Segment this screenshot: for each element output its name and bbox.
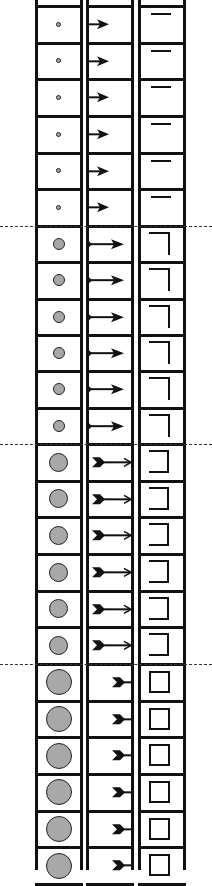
- top-line-icon: [139, 6, 184, 43]
- fletched-long-arrow-icon: [87, 554, 132, 591]
- short-arrow-right-icon: [87, 189, 132, 226]
- corner-bracket-icon: [139, 408, 184, 444]
- shape-cell: [139, 811, 184, 848]
- closed-square-icon: [139, 847, 184, 884]
- shape-cell: [139, 554, 184, 591]
- circle-icon: [49, 563, 68, 582]
- circle-icon: [46, 743, 72, 769]
- circle-icon: [56, 22, 61, 27]
- circle-icon: [46, 669, 72, 695]
- closed-square-icon: [139, 811, 184, 848]
- circle-cell: [36, 335, 81, 371]
- circle-icon: [53, 383, 65, 395]
- shape-cell: [139, 335, 184, 371]
- circle-cell: [36, 226, 81, 262]
- top-line-icon: [139, 116, 184, 153]
- stage-divider: [0, 444, 212, 445]
- corner-bracket-icon: [139, 371, 184, 407]
- circle-cell: [36, 189, 81, 226]
- fletched-short-arrow-bar-icon: [87, 737, 132, 774]
- circle-cell: [36, 79, 81, 116]
- circle-icon: [56, 205, 61, 210]
- circle-icon: [49, 526, 68, 545]
- shape-cell: [139, 774, 184, 811]
- shape-cell: [139, 262, 184, 298]
- arrow-cell: [87, 701, 132, 738]
- shape-cell: [139, 737, 184, 774]
- circle-cell: [36, 517, 81, 554]
- corner-bracket-icon: [139, 335, 184, 371]
- shape-cell: [139, 591, 184, 628]
- circle-cell: [36, 408, 81, 444]
- shape-cell: [139, 664, 184, 701]
- arrow-cell: [87, 6, 132, 43]
- arrow-cell: [87, 408, 132, 444]
- shape-cell: [139, 153, 184, 190]
- short-arrow-right-icon: [87, 6, 132, 43]
- circle-icon: [46, 816, 72, 842]
- arrow-cell: [87, 847, 132, 884]
- open-square-icon: [139, 481, 184, 518]
- corner-bracket-icon: [139, 226, 184, 262]
- circle-cell: [36, 43, 81, 80]
- circle-cell: [36, 6, 81, 43]
- shape-cell: [139, 408, 184, 444]
- shape-cell: [139, 517, 184, 554]
- shape-cell: [139, 701, 184, 738]
- top-line-icon: [139, 43, 184, 80]
- top-line-icon: [139, 79, 184, 116]
- arrow-cell: [87, 335, 132, 371]
- arrow-cell: [87, 737, 132, 774]
- closed-square-icon: [139, 664, 184, 701]
- shape-cell: [139, 6, 184, 43]
- shape-cell: [139, 299, 184, 335]
- circle-icon: [53, 274, 65, 286]
- closed-square-icon: [139, 701, 184, 738]
- fletched-long-arrow-icon: [87, 627, 132, 664]
- circle-icon: [53, 311, 65, 323]
- arrow-cell: [87, 627, 132, 664]
- circle-cell: [36, 701, 81, 738]
- arrow-cell: [87, 226, 132, 262]
- arrow-cell: [87, 517, 132, 554]
- circle-cell: [36, 811, 81, 848]
- circle-icon: [53, 238, 65, 250]
- circle-cell: [36, 444, 81, 481]
- circle-icon: [49, 599, 68, 618]
- long-arrow-with-tail-dot-icon: [87, 299, 132, 335]
- arrow-cell: [87, 554, 132, 591]
- circle-cell: [36, 116, 81, 153]
- circle-cell: [36, 591, 81, 628]
- fletched-short-arrow-bar-icon: [87, 811, 132, 848]
- circle-cell: [36, 554, 81, 591]
- short-arrow-right-icon: [87, 79, 132, 116]
- arrow-cell: [87, 444, 132, 481]
- arrow-cell: [87, 664, 132, 701]
- arrow-cell: [87, 43, 132, 80]
- circle-icon: [56, 58, 61, 63]
- circle-cell: [36, 664, 81, 701]
- shape-cell: [139, 371, 184, 407]
- circle-icon: [46, 853, 72, 879]
- arrow-cell: [87, 262, 132, 298]
- short-arrow-right-icon: [87, 116, 132, 153]
- arrow-cell: [87, 481, 132, 518]
- open-square-icon: [139, 554, 184, 591]
- arrow-cell: [87, 189, 132, 226]
- circle-icon: [49, 636, 68, 655]
- fletched-long-arrow-icon: [87, 444, 132, 481]
- circle-icon: [49, 489, 68, 508]
- circle-cell: [36, 774, 81, 811]
- shape-cell: [139, 226, 184, 262]
- fletched-short-arrow-bar-icon: [87, 847, 132, 884]
- fletched-short-arrow-bar-icon: [87, 664, 132, 701]
- fletched-long-arrow-icon: [87, 481, 132, 518]
- shape-cell: [139, 847, 184, 884]
- circle-icon: [46, 779, 72, 805]
- fletched-short-arrow-bar-icon: [87, 701, 132, 738]
- long-arrow-with-tail-dot-icon: [87, 262, 132, 298]
- shape-cell: [139, 627, 184, 664]
- shape-cell: [139, 79, 184, 116]
- long-arrow-with-tail-dot-icon: [87, 371, 132, 407]
- arrow-cell: [87, 153, 132, 190]
